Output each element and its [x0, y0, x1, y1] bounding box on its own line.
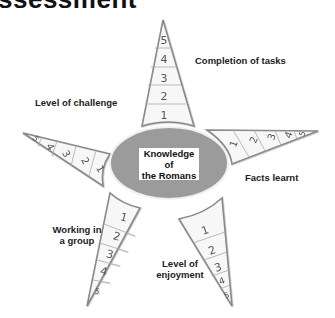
center-line-2: the Romans	[139, 170, 199, 181]
spike-level-of-enjoyment: 1 2 3 4 5	[179, 198, 232, 306]
label-level-of-enjoyment: Level of enjoyment	[155, 258, 205, 280]
scale-3: 3	[161, 72, 168, 85]
label-level-of-challenge: Level of challenge	[35, 97, 117, 108]
spike-level-of-challenge: 5 4 3 2 1	[23, 133, 110, 186]
label-working-in-a-group: Working in a group	[52, 224, 102, 246]
scale-5: 5	[161, 34, 168, 47]
label-completion-of-tasks: Completion of tasks	[195, 55, 286, 66]
spike-completion-of-tasks: 5 4 3 2 1	[142, 20, 194, 126]
label-working-line-2: a group	[52, 235, 102, 246]
spike-working-in-a-group: 1 2 3 4 5	[87, 193, 140, 306]
label-working-line-1: Working in	[52, 224, 102, 235]
scale-1: 1	[161, 109, 168, 122]
center-topic-label: Knowledge of the Romans	[139, 148, 199, 180]
svg-text:5: 5	[94, 287, 101, 297]
label-enjoyment-line-1: Level of	[155, 258, 205, 269]
scale-4: 4	[161, 53, 168, 66]
scale-2: 2	[161, 90, 168, 103]
label-facts-learnt: Facts learnt	[245, 172, 298, 183]
label-enjoyment-line-2: enjoyment	[155, 269, 205, 280]
center-line-1: Knowledge of	[139, 148, 199, 170]
